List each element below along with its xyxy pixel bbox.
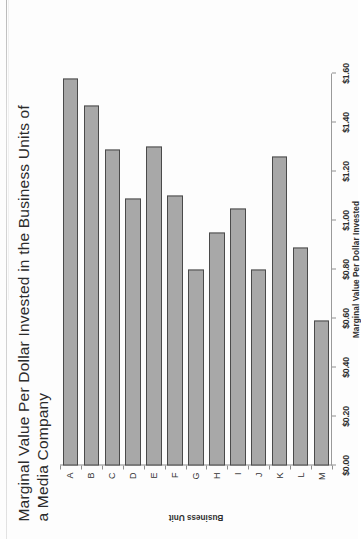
bar-c <box>105 149 120 465</box>
value-axis-title: Marginal Value Per Dollar Invested <box>352 73 361 465</box>
value-tick <box>332 219 336 220</box>
category-tick <box>290 465 291 469</box>
category-label-j: J <box>254 472 264 477</box>
category-tick <box>165 465 166 469</box>
value-tick-label: $0.40 <box>341 357 351 378</box>
bar-row: K <box>272 73 287 465</box>
category-label-e: E <box>149 472 159 478</box>
category-label-d: D <box>128 472 138 479</box>
category-tick <box>60 465 61 469</box>
value-tick-label: $1.20 <box>341 161 351 182</box>
bar-row: E <box>146 73 161 465</box>
bar-m <box>314 320 329 465</box>
bar-h <box>209 232 224 465</box>
bar-f <box>167 196 182 466</box>
category-tick <box>186 465 187 469</box>
bar-b <box>84 105 99 465</box>
category-label-i: I <box>233 472 243 475</box>
category-label-h: H <box>212 472 222 479</box>
value-tick <box>332 170 336 171</box>
bar-row: F <box>167 73 182 465</box>
value-tick-label: $1.40 <box>341 112 351 133</box>
category-label-c: C <box>107 472 117 479</box>
bar-row: A <box>63 73 78 465</box>
category-label-g: G <box>191 472 201 479</box>
bar-row: G <box>188 73 203 465</box>
value-tick-label: $0.00 <box>341 455 351 476</box>
bar-l <box>293 247 308 465</box>
bar-row: I <box>230 73 245 465</box>
value-tick <box>332 121 336 122</box>
category-label-l: L <box>296 472 306 477</box>
category-tick <box>144 465 145 469</box>
bar-k <box>272 156 287 465</box>
category-label-a: A <box>65 472 75 478</box>
category-label-m: M <box>317 472 327 480</box>
bar-row: D <box>125 73 140 465</box>
category-tick <box>81 465 82 469</box>
value-tick-label: $0.60 <box>341 308 351 329</box>
category-tick <box>269 465 270 469</box>
value-tick <box>332 366 336 367</box>
bar-row: H <box>209 73 224 465</box>
category-tick <box>227 465 228 469</box>
category-tick <box>332 465 333 469</box>
bar-row: J <box>251 73 266 465</box>
value-tick-label: $0.80 <box>341 259 351 280</box>
bar-e <box>146 147 161 466</box>
bar-row: L <box>293 73 308 465</box>
bar-d <box>125 198 140 465</box>
value-tick <box>332 317 336 318</box>
category-tick <box>206 465 207 469</box>
bar-j <box>251 269 266 465</box>
plot-area: ABCDEFGHIJKLM $0.00$0.20$0.40$0.60$0.80$… <box>60 73 332 465</box>
bar-g <box>188 269 203 465</box>
category-tick <box>248 465 249 469</box>
bar-row: C <box>105 73 120 465</box>
value-tick <box>332 464 336 465</box>
value-tick <box>332 268 336 269</box>
category-label-k: K <box>275 472 285 478</box>
bar-a <box>63 78 78 465</box>
value-tick-label: $1.00 <box>341 210 351 231</box>
bar-row: M <box>314 73 329 465</box>
value-tick-label: $0.20 <box>341 406 351 427</box>
bar-row: B <box>84 73 99 465</box>
category-label-b: B <box>86 472 96 478</box>
category-tick <box>102 465 103 469</box>
category-tick <box>311 465 312 469</box>
value-tick <box>332 72 336 73</box>
value-tick-label: $1.60 <box>341 63 351 84</box>
category-axis-title: Business Unit <box>169 512 224 521</box>
value-tick <box>332 415 336 416</box>
chart-title: Marginal Value Per Dollar Invested in th… <box>14 101 52 521</box>
bar-i <box>230 208 245 465</box>
category-label-f: F <box>170 472 180 478</box>
category-tick <box>123 465 124 469</box>
